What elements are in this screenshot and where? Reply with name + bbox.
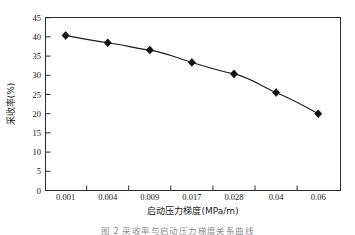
figure-caption: 图 2 采收率与启动压力梯度关系曲线 bbox=[0, 226, 355, 235]
data-point-marker bbox=[315, 110, 322, 118]
y-axis-title: 采收率(%) bbox=[5, 83, 16, 126]
series-line-recovery bbox=[66, 36, 319, 114]
x-tick-label: 0.017 bbox=[182, 192, 201, 202]
y-tick-label: 40 bbox=[33, 32, 42, 42]
y-tick-label: 35 bbox=[33, 51, 42, 61]
x-tick-label: 0.001 bbox=[56, 192, 75, 202]
x-tick-label: 0.009 bbox=[140, 192, 159, 202]
x-axis-ticks bbox=[87, 186, 298, 191]
data-point-marker bbox=[62, 32, 69, 40]
y-tick-label: 0 bbox=[37, 186, 41, 196]
y-tick-label: 15 bbox=[33, 128, 42, 138]
recovery-vs-pressure-gradient-chart: 0 5 10 15 20 25 30 35 40 45 0.001 0.004 … bbox=[0, 0, 355, 235]
y-tick-label: 10 bbox=[33, 147, 42, 157]
y-axis-ticks bbox=[46, 18, 51, 191]
data-point-marker bbox=[273, 89, 280, 97]
x-axis-tick-labels: 0.001 0.004 0.009 0.017 0.028 0.04 0.06 bbox=[56, 192, 326, 202]
y-axis-tick-labels: 0 5 10 15 20 25 30 35 40 45 bbox=[33, 13, 42, 196]
x-tick-label: 0.004 bbox=[98, 192, 118, 202]
y-tick-label: 45 bbox=[33, 13, 42, 23]
x-tick-label: 0.04 bbox=[269, 192, 285, 202]
data-point-marker bbox=[104, 39, 111, 47]
data-point-marker bbox=[146, 46, 153, 54]
y-tick-label: 20 bbox=[33, 109, 42, 119]
data-point-marker bbox=[230, 70, 237, 78]
series-markers bbox=[62, 32, 322, 118]
y-tick-label: 5 bbox=[37, 166, 41, 176]
data-point-marker bbox=[188, 58, 195, 66]
y-tick-label: 25 bbox=[33, 90, 42, 100]
figure-container: 0 5 10 15 20 25 30 35 40 45 0.001 0.004 … bbox=[0, 0, 355, 235]
x-axis-title: 启动压力梯度(MPa/m) bbox=[147, 205, 238, 216]
x-tick-label: 0.06 bbox=[311, 192, 326, 202]
plot-frame bbox=[46, 18, 341, 191]
x-tick-label: 0.028 bbox=[224, 192, 243, 202]
y-tick-label: 30 bbox=[33, 70, 42, 80]
